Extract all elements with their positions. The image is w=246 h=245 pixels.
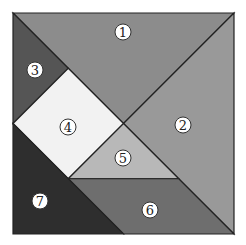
piece-6-label: 6 [146, 203, 154, 218]
piece-7-label: 7 [36, 194, 44, 209]
tangram-diagram: 1 2 3 4 5 6 7 [0, 0, 246, 245]
piece-4-label: 4 [64, 120, 72, 135]
piece-1-label: 1 [119, 25, 127, 40]
piece-3-label: 3 [31, 63, 39, 78]
piece-2-label: 2 [179, 118, 187, 133]
piece-5-label: 5 [119, 151, 127, 166]
